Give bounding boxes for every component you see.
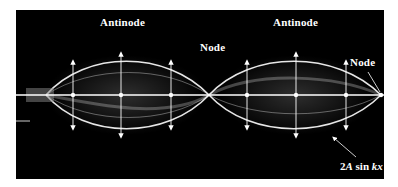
node-label-middle: Node [200,41,225,53]
vibrator-device [16,88,54,122]
antinode-label-left: Antinode [100,16,145,28]
standing-wave-photo-panel: Antinode Node Antinode Node 2A sin kx [16,10,384,179]
antinode-label-right: Antinode [273,16,318,28]
node-label-right: Node [350,56,375,68]
standing-wave-diagram [16,10,384,179]
amplitude-formula: 2A sin kx [340,160,383,172]
formula-leader-line [334,138,356,157]
